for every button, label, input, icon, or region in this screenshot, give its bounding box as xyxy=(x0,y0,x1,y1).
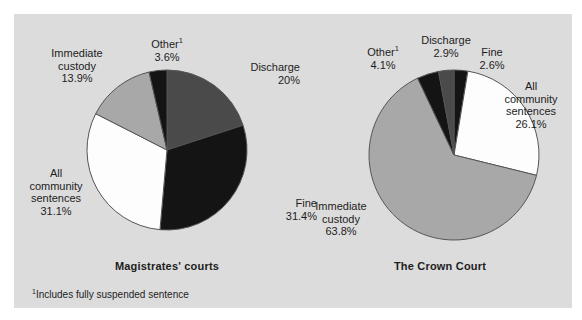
label-fine-pct: 2.6% xyxy=(467,59,517,72)
footnote: 1Includes fully suspended sentence xyxy=(32,289,189,300)
label-immediate-custody-line2: custody xyxy=(298,213,384,226)
label-discharge: Discharge 20% xyxy=(214,61,300,86)
label-other-pct: 4.1% xyxy=(348,59,418,72)
label-other-pct: 3.6% xyxy=(117,51,217,64)
label-other: Other1 3.6% xyxy=(117,38,217,63)
label-fine: Fine 2.6% xyxy=(467,46,517,71)
label-discharge-name: Discharge xyxy=(421,34,471,46)
label-immediate-custody-line1: Immediate xyxy=(51,47,102,59)
footnote-marker-other: 1 xyxy=(179,36,183,45)
label-immediate-custody-line1: Immediate xyxy=(315,200,366,212)
label-discharge-name: Discharge xyxy=(250,61,300,73)
footnote-text: Includes fully suspended sentence xyxy=(36,289,189,300)
label-discharge-pct: 20% xyxy=(214,74,300,87)
label-immediate-custody-line2: custody xyxy=(32,60,122,73)
label-immediate-custody: Immediate custody 63.8% xyxy=(298,200,384,238)
label-other-name: Other xyxy=(151,38,179,50)
chart-title-crown-court: The Crown Court xyxy=(360,260,520,272)
label-fine-name: Fine xyxy=(481,46,502,58)
label-community-line1: All xyxy=(50,167,62,179)
label-community-line2: community xyxy=(490,93,572,106)
pie-chart-magistrates-courts: Other1 3.6% Immediate custody 13.9% Disc… xyxy=(14,14,304,308)
pie-chart-crown-court: Other1 4.1% Discharge 2.9% Fine 2.6% All… xyxy=(304,14,572,308)
chart-title-magistrates-courts: Magistrates' courts xyxy=(67,260,267,272)
label-immediate-custody: Immediate custody 13.9% xyxy=(32,47,122,85)
label-community-pct: 26.1% xyxy=(490,118,572,131)
label-immediate-custody-pct: 13.9% xyxy=(32,72,122,85)
label-community-pct: 31.1% xyxy=(16,205,96,218)
label-community-line2: community xyxy=(16,180,96,193)
label-immediate-custody-pct: 63.8% xyxy=(298,225,384,238)
footnote-marker-other: 1 xyxy=(395,44,399,53)
label-all-community-sentences: All community sentences 31.1% xyxy=(16,167,96,217)
label-community-line1: All xyxy=(525,80,537,92)
figure-panel: Other1 3.6% Immediate custody 13.9% Disc… xyxy=(14,14,572,308)
label-all-community-sentences: All community sentences 26.1% xyxy=(490,80,572,130)
label-other-name: Other xyxy=(367,46,395,58)
label-community-line3: sentences xyxy=(490,105,572,118)
label-community-line3: sentences xyxy=(16,192,96,205)
